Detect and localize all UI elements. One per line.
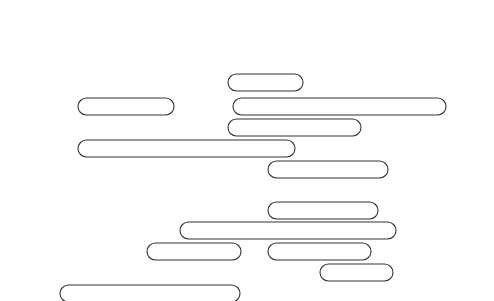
word-search-puzzle bbox=[0, 0, 494, 301]
